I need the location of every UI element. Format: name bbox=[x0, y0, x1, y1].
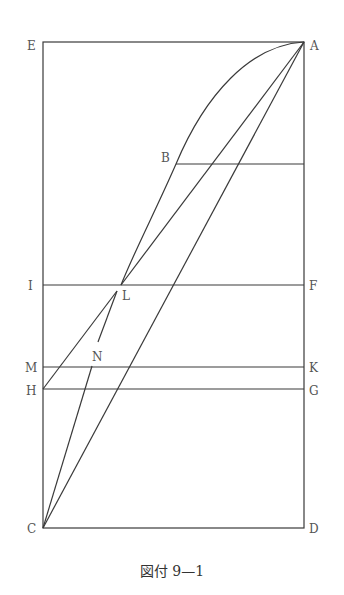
label-L: L bbox=[122, 289, 130, 303]
line-LH bbox=[43, 291, 117, 389]
label-G: G bbox=[309, 384, 319, 398]
label-I: I bbox=[28, 279, 33, 293]
label-C: C bbox=[27, 522, 36, 536]
label-F: F bbox=[309, 279, 317, 293]
label-K: K bbox=[309, 361, 319, 375]
line-CN bbox=[43, 366, 92, 528]
line-LN bbox=[98, 291, 117, 342]
figure-diagram: E A B I L F N M K H G C D bbox=[0, 0, 344, 595]
label-N: N bbox=[92, 350, 103, 364]
label-B: B bbox=[161, 151, 170, 165]
figure-caption: 図付 9—1 bbox=[0, 560, 344, 580]
label-D: D bbox=[309, 522, 319, 536]
label-A: A bbox=[309, 39, 319, 53]
label-M: M bbox=[25, 361, 37, 375]
label-E: E bbox=[27, 39, 36, 53]
label-H: H bbox=[26, 384, 36, 398]
